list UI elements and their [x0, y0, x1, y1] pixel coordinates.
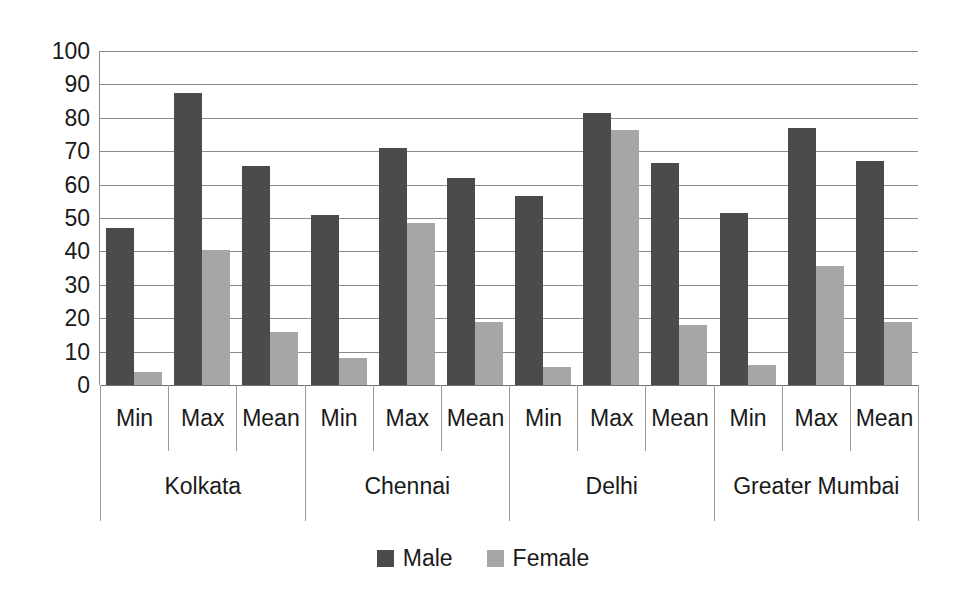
bar-group [509, 51, 714, 385]
bar-cluster [100, 51, 168, 385]
y-tick-label: 90 [64, 73, 90, 96]
bar-female [611, 130, 639, 386]
city-label: Delhi [510, 451, 715, 521]
bar-male [174, 93, 202, 385]
bar-female [134, 372, 162, 385]
bar-cluster [714, 51, 782, 385]
legend-item-male[interactable]: Male [377, 545, 453, 572]
y-tick-label: 100 [52, 40, 90, 63]
y-tick-label: 80 [64, 107, 90, 130]
y-axis: 1009080706050403020100 [18, 38, 90, 398]
bar-female [748, 365, 776, 385]
bar-male [720, 213, 748, 385]
city-label: Kolkata [101, 451, 306, 521]
bar-group [305, 51, 510, 385]
category-label-mean: Mean [442, 385, 509, 451]
city-label: Chennai [306, 451, 511, 521]
y-tick-label: 10 [64, 341, 90, 364]
category-label-mean: Mean [851, 385, 918, 451]
category-label-mean: Mean [646, 385, 713, 451]
bar-male [106, 228, 134, 385]
y-tick-label: 70 [64, 140, 90, 163]
category-group: MinMaxMean [510, 385, 715, 451]
city-label: Greater Mumbai [715, 451, 920, 521]
category-group: MinMaxMean [715, 385, 920, 451]
bar-female [270, 332, 298, 385]
category-label-max: Max [374, 385, 442, 451]
bar-groups [100, 51, 918, 385]
category-group: MinMaxMean [101, 385, 306, 451]
bar-female [884, 322, 912, 385]
y-tick-label: 60 [64, 174, 90, 197]
bar-male [447, 178, 475, 385]
legend-label: Female [513, 545, 590, 572]
bar-male [311, 215, 339, 385]
y-tick-label: 20 [64, 307, 90, 330]
category-label-min: Min [510, 385, 578, 451]
bar-cluster [441, 51, 509, 385]
bar-male [379, 148, 407, 385]
bar-cluster [168, 51, 236, 385]
category-axis: MinMaxMeanMinMaxMeanMinMaxMeanMinMaxMean [100, 385, 919, 451]
category-label-min: Min [306, 385, 374, 451]
legend-label: Male [403, 545, 453, 572]
bar-female [202, 250, 230, 385]
bar-female [543, 367, 571, 385]
category-group: MinMaxMean [306, 385, 511, 451]
bar-group [100, 51, 305, 385]
category-label-max: Max [169, 385, 237, 451]
bar-female [339, 358, 367, 385]
bar-female [475, 322, 503, 385]
legend-swatch-male [377, 550, 394, 567]
plot-area [100, 51, 918, 385]
y-tick-label: 0 [77, 374, 90, 397]
bar-female [679, 325, 707, 385]
bar-group [714, 51, 919, 385]
bar-male [788, 128, 816, 385]
bar-female [816, 266, 844, 385]
category-label-min: Min [715, 385, 783, 451]
bar-cluster [509, 51, 577, 385]
category-label-max: Max [578, 385, 646, 451]
y-tick-label: 50 [64, 207, 90, 230]
chart-legend: MaleFemale [0, 545, 966, 572]
bar-cluster [782, 51, 850, 385]
category-label-max: Max [783, 385, 851, 451]
category-label-min: Min [101, 385, 169, 451]
bar-cluster [373, 51, 441, 385]
legend-item-female[interactable]: Female [487, 545, 590, 572]
bar-cluster [236, 51, 304, 385]
category-label-mean: Mean [237, 385, 304, 451]
bar-male [583, 113, 611, 385]
bar-male [242, 166, 270, 385]
legend-swatch-female [487, 550, 504, 567]
bar-cluster [850, 51, 918, 385]
bar-cluster [305, 51, 373, 385]
y-tick-label: 30 [64, 274, 90, 297]
bar-chart: 1009080706050403020100 MinMaxMeanMinMaxM… [0, 0, 966, 608]
bar-male [856, 161, 884, 385]
bar-female [407, 223, 435, 385]
bar-cluster [577, 51, 645, 385]
bar-cluster [645, 51, 713, 385]
bar-male [515, 196, 543, 385]
city-axis: KolkataChennaiDelhiGreater Mumbai [100, 451, 919, 521]
y-tick-label: 40 [64, 240, 90, 263]
bar-male [651, 163, 679, 385]
